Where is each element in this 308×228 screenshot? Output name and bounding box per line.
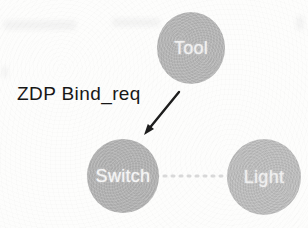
edge-label-zdp-bind-req: ZDP Bind_req <box>17 83 141 105</box>
node-switch: Switch <box>87 139 159 213</box>
node-switch-label: Switch <box>96 166 151 187</box>
node-light-label: Light <box>244 167 285 188</box>
scan-artifact <box>2 66 8 78</box>
scan-artifact <box>4 20 76 30</box>
scan-artifact <box>296 16 304 30</box>
bind-req-arrow-head <box>144 124 154 135</box>
node-tool-label: Tool <box>174 38 208 59</box>
diagram-canvas: Tool Switch Light ZDP Bind_req <box>0 0 308 228</box>
scan-artifact <box>112 18 160 27</box>
node-tool: Tool <box>157 12 225 84</box>
node-light: Light <box>227 139 301 215</box>
bind-req-arrow-shaft <box>148 92 179 130</box>
